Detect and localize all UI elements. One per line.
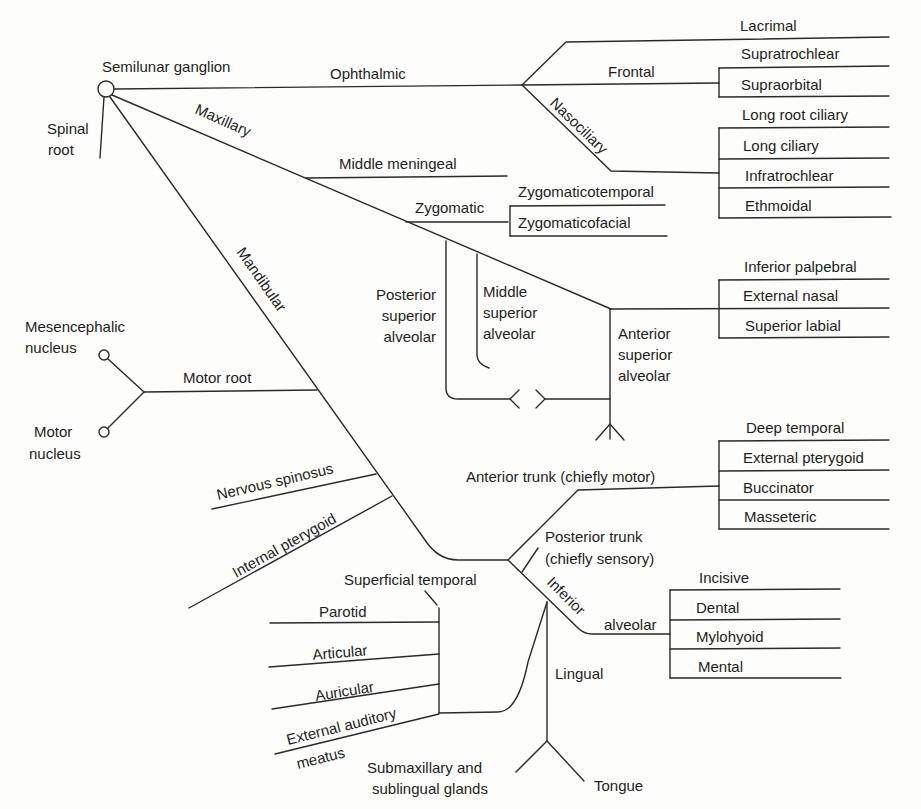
- middle-superior-alveolar-label-1: Middle: [483, 283, 527, 300]
- ethmoidal-line: [719, 217, 891, 218]
- nasociliary-line: [522, 85, 719, 173]
- mesencephalic-nucleus-node: [99, 350, 109, 360]
- ethmoidal-label: Ethmoidal: [745, 197, 812, 214]
- middle-superior-alveolar-label-2: superior: [483, 304, 537, 321]
- external-nasal-label: External nasal: [743, 287, 838, 304]
- incisive-label: Incisive: [699, 569, 749, 586]
- motor-nucleus-branch-line: [108, 392, 144, 428]
- posterior-superior-alveolar-label-1: Posterior: [376, 286, 436, 303]
- internal-pterygoid-label: Internal pterygoid: [229, 510, 339, 581]
- zygomaticotemporal-line: [510, 205, 665, 206]
- mesencephalic-label-1: Mesencephalic: [25, 318, 126, 335]
- mylohyoid-label: Mylohyoid: [696, 628, 764, 645]
- supraorbital-label: Supraorbital: [741, 76, 822, 93]
- inferior-palpebral-line: [719, 279, 889, 280]
- mesencephalic-label-2: nucleus: [25, 339, 77, 356]
- mylohyoid-line: [670, 648, 840, 649]
- middle-meningeal-line: [306, 176, 507, 178]
- supraorbital-line: [719, 96, 889, 97]
- glands-label-2: sublingual glands: [372, 780, 488, 797]
- nasociliary-label: Nasociliary: [547, 94, 612, 158]
- trigeminal-nerve-diagram: Semilunar ganglion Spinal root Ophthalmi…: [0, 0, 921, 809]
- tongue-label: Tongue: [594, 777, 643, 794]
- glands-branch-line: [516, 741, 547, 772]
- ophthalmic-label: Ophthalmic: [330, 65, 406, 82]
- posterior-trunk-label-2: (chiefly sensory): [545, 550, 654, 567]
- glands-label-1: Submaxillary and: [367, 759, 482, 776]
- motor-nucleus-label-1: Motor: [34, 423, 72, 440]
- auricular-label: Auricular: [314, 678, 375, 704]
- spinal-root-label-2: root: [48, 141, 75, 158]
- long-ciliary-line: [719, 158, 889, 159]
- auriculotemporal-line: [439, 602, 547, 713]
- inferior-alveolar-label-alveolar: alveolar: [604, 616, 657, 633]
- spinal-root-line: [100, 97, 104, 158]
- inferior-palpebral-label: Inferior palpebral: [744, 258, 857, 275]
- anterior-trunk-label: Anterior trunk (chiefly motor): [466, 468, 655, 485]
- middle-meningeal-label: Middle meningeal: [339, 155, 457, 172]
- buccinator-label: Buccinator: [743, 479, 814, 496]
- external-pterygoid-line: [719, 470, 889, 471]
- anterior-trunk-line: [508, 486, 719, 560]
- motor-nucleus-label-2: nucleus: [29, 445, 81, 462]
- dental-line: [670, 619, 840, 620]
- infratrochlear-label: Infratrochlear: [745, 167, 833, 184]
- frontal-line: [522, 83, 719, 85]
- parotid-line: [270, 622, 439, 623]
- maxillary-line: [112, 95, 611, 309]
- mesencephalic-branch-line: [108, 359, 144, 392]
- posterior-superior-alveolar-label-3: alveolar: [383, 328, 436, 345]
- semilunar-ganglion-label: Semilunar ganglion: [102, 58, 230, 75]
- nervous-spinosus-label: Nervous spinosus: [215, 460, 335, 503]
- mental-label: Mental: [698, 658, 743, 675]
- long-root-ciliary-line: [719, 127, 889, 128]
- middle-superior-alveolar-label-3: alveolar: [483, 325, 536, 342]
- inferior-alveolar-label-inferior: Inferior: [544, 573, 589, 618]
- incisive-line: [670, 589, 840, 590]
- long-ciliary-label: Long ciliary: [743, 137, 819, 154]
- zygomaticofacial-label: Zygomaticofacial: [518, 214, 631, 231]
- tongue-branch-line: [547, 741, 584, 781]
- external-pterygoid-label: External pterygoid: [743, 449, 864, 466]
- mandibular-label: Mandibular: [234, 244, 290, 315]
- spinal-root-label-1: Spinal: [47, 120, 89, 137]
- motor-nucleus-node: [99, 427, 109, 437]
- anterior-superior-alveolar-label-1: Anterior: [618, 325, 671, 342]
- external-auditory-label: External auditory: [285, 704, 399, 748]
- deep-temporal-label: Deep temporal: [746, 419, 844, 436]
- superior-labial-label: Superior labial: [745, 317, 841, 334]
- dental-label: Dental: [696, 599, 739, 616]
- deep-temporal-line: [719, 440, 889, 441]
- infraorbital-line: [610, 308, 889, 309]
- lingual-label: Lingual: [555, 665, 603, 682]
- infratrochlear-line: [719, 187, 889, 188]
- plexus-right-chevron-icon: [536, 390, 545, 408]
- posterior-trunk-line: [522, 548, 538, 572]
- superficial-temporal-pointer: [425, 591, 437, 605]
- motor-root-label: Motor root: [183, 369, 252, 386]
- zygomaticotemporal-label: Zygomaticotemporal: [518, 183, 654, 200]
- lacrimal-label: Lacrimal: [740, 17, 797, 34]
- supratrochlear-label: Supratrochlear: [741, 45, 839, 62]
- supratrochlear-line: [719, 66, 889, 68]
- posterior-superior-alveolar-label-2: superior: [382, 307, 436, 324]
- long-root-ciliary-label: Long root ciliary: [742, 106, 848, 123]
- posterior-trunk-label-1: Posterior trunk: [545, 528, 643, 545]
- masseteric-label: Masseteric: [744, 508, 817, 525]
- superficial-temporal-label: Superficial temporal: [344, 571, 477, 588]
- zygomatic-label: Zygomatic: [415, 199, 485, 216]
- anterior-superior-alveolar-label-2: superior: [618, 346, 672, 363]
- internal-pterygoid-line: [189, 496, 392, 608]
- plexus-left-chevron-icon: [510, 390, 519, 408]
- ophthalmic-line: [114, 85, 522, 89]
- motor-root-line: [144, 390, 317, 392]
- frontal-label: Frontal: [608, 63, 655, 80]
- parotid-label: Parotid: [319, 603, 367, 620]
- anterior-superior-alveolar-label-3: alveolar: [618, 367, 671, 384]
- superior-labial-line: [719, 337, 889, 338]
